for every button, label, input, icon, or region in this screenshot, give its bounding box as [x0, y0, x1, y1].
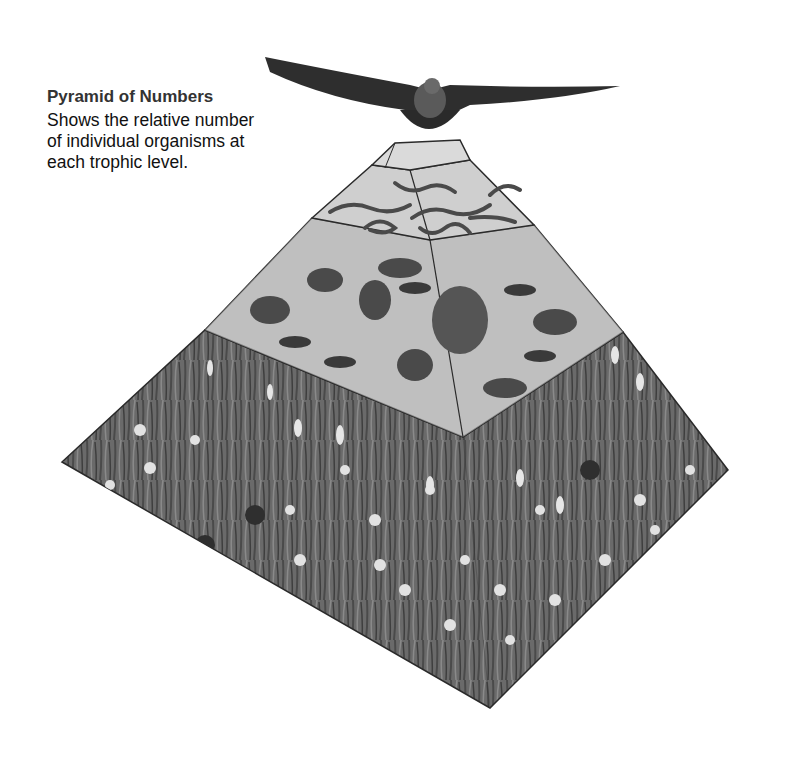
mouse-icon — [307, 268, 343, 292]
mouse-icon — [359, 280, 391, 320]
mouse-icon — [378, 258, 422, 278]
mouse-icon — [397, 349, 433, 381]
mouse-icon — [483, 378, 527, 398]
grasshopper-icon — [279, 336, 311, 348]
hawk-icon — [265, 57, 620, 129]
grasshopper-icon — [399, 282, 431, 294]
mouse-icon — [533, 309, 577, 335]
pyramid-diagram — [0, 0, 793, 758]
mouse-icon — [250, 296, 290, 324]
grasshopper-icon — [524, 350, 556, 362]
grasshopper-icon — [504, 284, 536, 296]
rabbit-icon — [432, 286, 488, 354]
grasshopper-icon — [324, 356, 356, 368]
